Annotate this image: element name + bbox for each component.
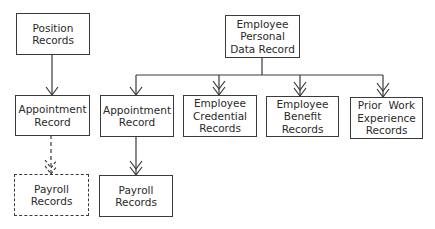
node-prior-work-experience-records: Prior Work Experience Records: [350, 97, 423, 139]
node-label: Records: [31, 195, 73, 208]
node-label: Payroll: [34, 183, 69, 196]
node-label: Personal: [240, 30, 285, 43]
node-label: Record: [119, 116, 155, 129]
node-label: Records: [199, 122, 241, 135]
node-label: Employee: [236, 18, 288, 31]
node-appointment-record-right: Appointment Record: [100, 95, 174, 137]
node-payroll-records-right: Payroll Records: [99, 175, 173, 217]
node-position-records: Position Records: [16, 13, 90, 55]
node-label: Record: [34, 116, 70, 129]
node-label: Records: [366, 124, 408, 137]
node-employee-personal-data-record: Employee Personal Data Record: [225, 15, 300, 58]
node-label: Data Record: [230, 43, 295, 56]
node-label: Records: [115, 196, 157, 209]
node-label: Experience: [357, 112, 416, 125]
node-appointment-record-left: Appointment Record: [15, 95, 90, 136]
node-payroll-records-left: Payroll Records: [14, 174, 89, 216]
node-label: Employee: [194, 97, 246, 110]
node-label: Payroll: [119, 184, 154, 197]
node-label: Records: [282, 123, 324, 136]
node-employee-benefit-records: Employee Benefit Records: [266, 96, 339, 137]
node-label: Benefit: [284, 110, 322, 123]
node-label: Position: [33, 22, 74, 35]
node-label: Appointment: [103, 104, 171, 117]
node-label: Prior Work: [358, 99, 415, 112]
node-label: Employee: [276, 98, 328, 111]
node-label: Appointment: [18, 103, 86, 116]
node-label: Records: [32, 34, 74, 47]
node-employee-credential-records: Employee Credential Records: [183, 95, 257, 137]
node-label: Credential: [193, 110, 247, 123]
